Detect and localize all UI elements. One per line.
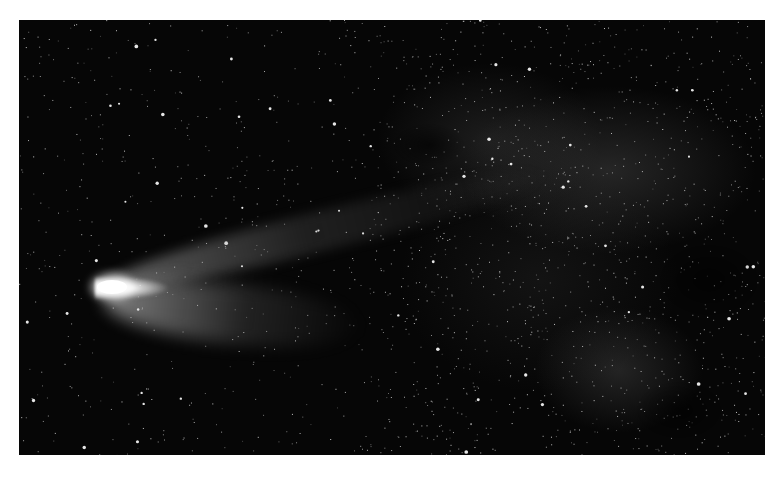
milky-way-glow xyxy=(19,20,765,455)
star-field xyxy=(19,20,765,455)
comet-photograph xyxy=(19,20,765,455)
comet-nucleus xyxy=(97,280,127,294)
dark-dust-lanes xyxy=(19,20,765,455)
